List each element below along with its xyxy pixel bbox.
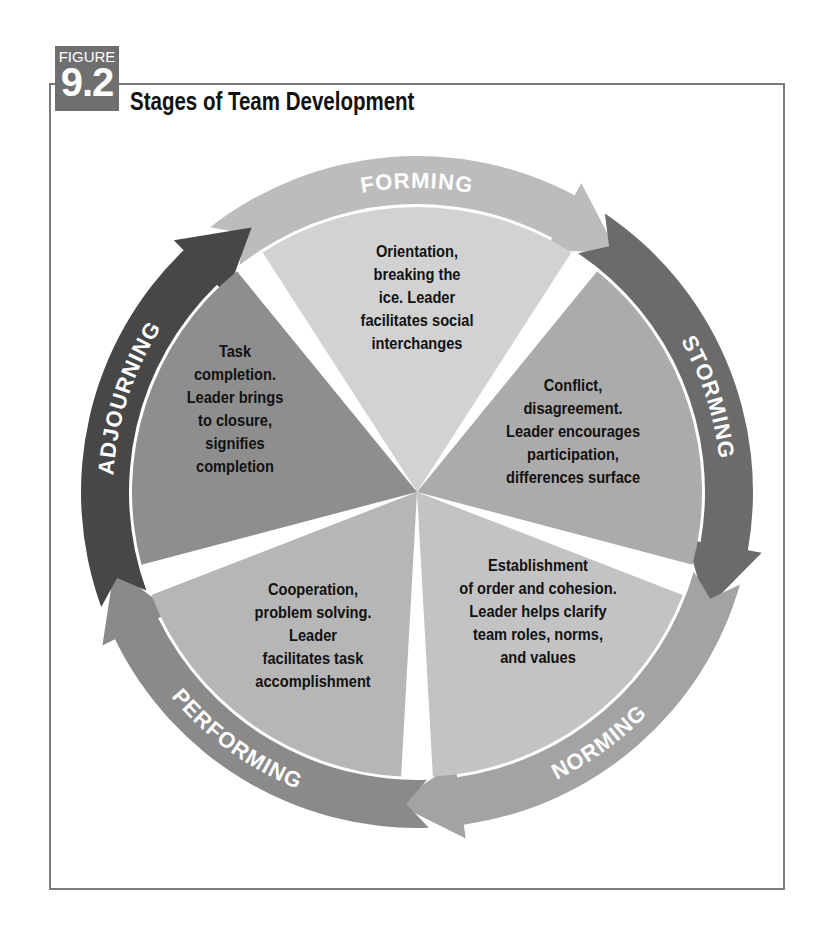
- stage-description-forming: Orientation,breaking theice. Leaderfacil…: [331, 240, 503, 355]
- stage-description-performing: Cooperation,problem solving.Leaderfacili…: [227, 578, 399, 693]
- description-line: Leader encourages: [483, 420, 664, 443]
- stage-description-adjourning: Taskcompletion.Leader bringsto closure,s…: [171, 340, 300, 478]
- description-line: Leader brings: [171, 386, 300, 409]
- description-line: Leader: [227, 624, 399, 647]
- stage-description-storming: Conflict,disagreement.Leader encouragesp…: [483, 374, 664, 489]
- description-line: Orientation,: [331, 240, 503, 263]
- description-line: problem solving.: [227, 601, 399, 624]
- description-line: facilitates task: [227, 647, 399, 670]
- description-line: completion.: [171, 363, 300, 386]
- description-line: breaking the: [331, 263, 503, 286]
- description-line: Task: [171, 340, 300, 363]
- description-line: Cooperation,: [227, 578, 399, 601]
- description-line: completion: [171, 455, 300, 478]
- description-line: Leader helps clarify: [443, 600, 632, 623]
- stage-description-norming: Establishmentof order and cohesion.Leade…: [443, 554, 632, 669]
- description-line: ice. Leader: [331, 286, 503, 309]
- description-line: participation,: [483, 443, 664, 466]
- description-line: disagreement.: [483, 397, 664, 420]
- team-development-wheel: FORMINGSTORMINGNORMINGPERFORMINGADJOURNI…: [0, 0, 828, 942]
- description-line: and values: [443, 646, 632, 669]
- description-line: Conflict,: [483, 374, 664, 397]
- description-line: signifies: [171, 432, 300, 455]
- description-line: of order and cohesion.: [443, 577, 632, 600]
- description-line: accomplishment: [227, 670, 399, 693]
- description-line: team roles, norms,: [443, 623, 632, 646]
- description-line: interchanges: [331, 332, 503, 355]
- description-line: Establishment: [443, 554, 632, 577]
- description-line: to closure,: [171, 409, 300, 432]
- description-line: differences surface: [483, 466, 664, 489]
- description-line: facilitates social: [331, 309, 503, 332]
